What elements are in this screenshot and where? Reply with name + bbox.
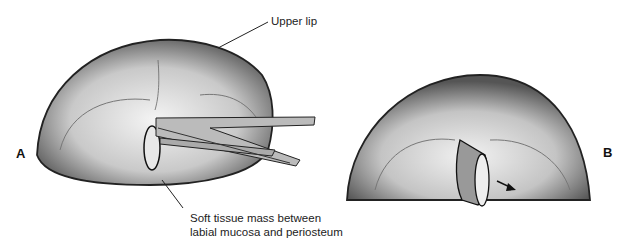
panel-a-lip	[37, 40, 315, 185]
soft-tissue-label-line1: Soft tissue mass between	[190, 211, 321, 225]
upper-lip-label: Upper lip	[271, 14, 317, 28]
panel-b-lip	[347, 75, 590, 206]
medical-illustration: Upper lip Soft tissue mass between labia…	[0, 0, 622, 243]
soft-tissue-label-line2: labial mucosa and periosteum	[190, 225, 343, 239]
upper-lip-leader	[218, 22, 268, 48]
panel-b-label: B	[603, 145, 612, 160]
lip-drawing	[0, 0, 622, 243]
panel-a-label: A	[16, 146, 25, 161]
